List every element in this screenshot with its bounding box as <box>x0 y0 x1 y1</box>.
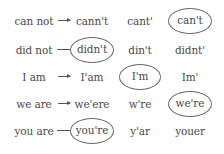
option-1[interactable]: I'am <box>70 64 114 90</box>
option-2-circled[interactable]: I'm <box>119 64 161 90</box>
contraction-row-we-are: we are we'ere w're we're <box>0 91 224 117</box>
arrow-icon <box>57 130 71 131</box>
option-3-circled[interactable]: we're <box>168 91 212 117</box>
base-phrase: I am <box>10 64 58 90</box>
option-1[interactable]: we'ere <box>70 91 114 117</box>
base-phrase: can not <box>10 8 58 34</box>
option-1-circled[interactable]: you're <box>70 118 114 144</box>
option-2[interactable]: y'ar <box>119 118 161 144</box>
arrow-icon <box>58 20 70 21</box>
contraction-row-did-not: did not didn't din't didnt' <box>0 37 224 63</box>
option-2[interactable]: w're <box>119 91 161 117</box>
option-2[interactable]: cant' <box>119 8 161 34</box>
option-3[interactable]: didnt' <box>168 37 212 63</box>
option-3[interactable]: youer <box>168 118 212 144</box>
arrow-icon <box>58 103 70 104</box>
option-1[interactable]: cann't <box>70 8 114 34</box>
contraction-row-can-not: can not cann't cant' can't <box>0 8 224 34</box>
option-3[interactable]: Im' <box>168 64 212 90</box>
base-phrase: we are <box>10 91 58 117</box>
option-3-circled[interactable]: can't <box>168 8 212 34</box>
base-phrase: you are <box>10 118 58 144</box>
base-phrase: did not <box>10 37 58 63</box>
contraction-row-you-are: you are you're y'ar youer <box>0 118 224 144</box>
contraction-row-i-am: I am I'am I'm Im' <box>0 64 224 90</box>
arrow-icon <box>58 76 70 77</box>
option-2[interactable]: din't <box>119 37 161 63</box>
option-1-circled[interactable]: didn't <box>70 37 114 63</box>
arrow-icon <box>57 49 71 50</box>
